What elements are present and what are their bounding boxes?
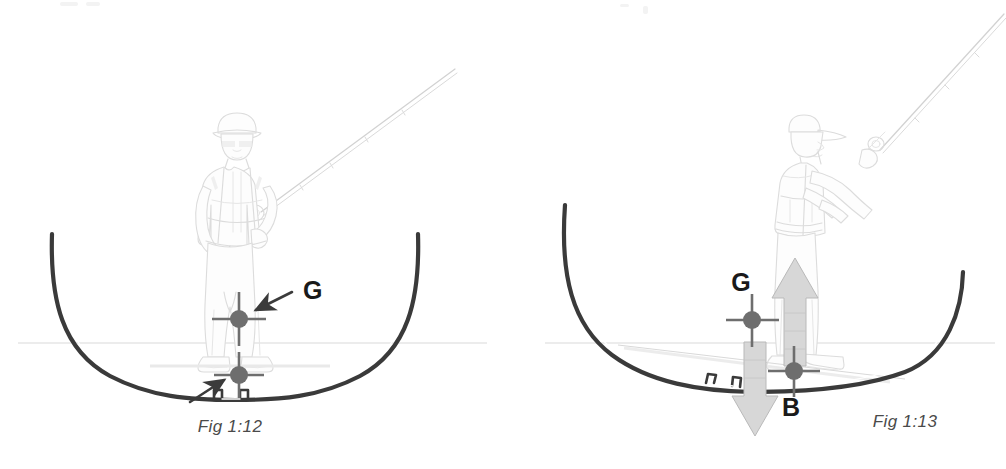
label-centre-of-buoyancy: B <box>782 393 800 421</box>
figure-1-12: G Fig 1:12 <box>18 69 487 436</box>
scan-artifacts <box>60 2 648 14</box>
stability-diagram: G Fig 1:12 <box>0 0 1006 469</box>
centre-of-gravity-marker <box>726 294 779 347</box>
figure-1-13: G B Fig 1:13 <box>545 14 1006 436</box>
keel-skeg <box>706 374 741 387</box>
caption-fig-1-13: Fig 1:13 <box>873 412 938 431</box>
label-centre-of-gravity: G <box>303 276 322 304</box>
label-centre-of-gravity: G <box>731 268 750 296</box>
gravity-down-arrow <box>732 342 778 436</box>
g-pointer-arrow <box>256 292 292 310</box>
illustration-canvas: G Fig 1:12 <box>0 0 1006 469</box>
rod-guides <box>915 53 979 122</box>
caption-fig-1-12: Fig 1:12 <box>198 417 263 436</box>
